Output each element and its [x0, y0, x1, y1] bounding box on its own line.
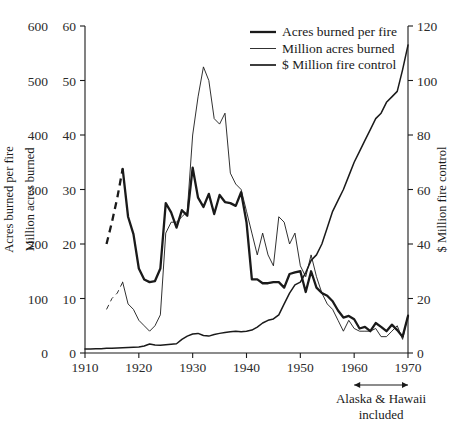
left-inner-tick-label-40: 40: [63, 128, 77, 143]
left-inner-tick-label-10: 10: [63, 292, 77, 307]
x-tick-label-1940: 1940: [233, 360, 260, 375]
left-outer-tick-label-600: 600: [28, 19, 49, 34]
right-tick-label-120: 120: [417, 19, 438, 34]
chart-canvas: 1910192019301940195019601970010203040506…: [0, 0, 457, 426]
left-inner-tick-label-20: 20: [63, 237, 77, 252]
x-tick-label-1960: 1960: [341, 360, 368, 375]
right-tick-label-80: 80: [417, 128, 431, 143]
series-line-acres-burned-per-fire: [123, 168, 408, 337]
annotation-line-1: Alaska & Hawaii: [336, 391, 427, 406]
x-tick-label-1970: 1970: [395, 360, 422, 375]
x-tick-label-1950: 1950: [287, 360, 314, 375]
left-outer-tick-label-0: 0: [41, 346, 48, 361]
left-inner-tick-label-0: 0: [69, 346, 76, 361]
series-dashed-million-acres-burned: [107, 282, 123, 309]
left-outer-tick-label-300: 300: [28, 183, 49, 198]
right-axis-title: $ Million fire control: [435, 146, 449, 252]
right-tick-label-40: 40: [417, 237, 431, 252]
left-outer-tick-label-100: 100: [28, 292, 49, 307]
legend-label-2: $ Million fire control: [282, 57, 397, 72]
x-tick-label-1930: 1930: [179, 360, 206, 375]
annotation-line-2: included: [359, 407, 404, 422]
annotation-arrowhead-1: [402, 382, 408, 388]
left-outer-axis-title: Acres burned per fire: [2, 146, 16, 253]
left-inner-tick-label-30: 30: [63, 183, 77, 198]
x-tick-label-1910: 1910: [72, 360, 99, 375]
fire-statistics-chart: 1910192019301940195019601970010203040506…: [0, 0, 457, 426]
left-inner-axis-title: Million acres burned: [23, 147, 37, 252]
right-tick-label-60: 60: [417, 183, 431, 198]
annotation-arrowhead-0: [354, 382, 360, 388]
left-outer-tick-label-200: 200: [28, 237, 49, 252]
left-outer-tick-label-400: 400: [28, 128, 49, 143]
right-tick-label-0: 0: [417, 346, 424, 361]
legend-label-0: Acres burned per fire: [282, 24, 397, 39]
left-outer-tick-label-500: 500: [28, 74, 49, 89]
series-line-$-million-fire-control: [85, 45, 408, 349]
left-inner-tick-label-50: 50: [63, 74, 77, 89]
right-tick-label-100: 100: [417, 74, 438, 89]
x-tick-label-1920: 1920: [125, 360, 152, 375]
legend-label-1: Million acres burned: [282, 41, 395, 56]
left-inner-tick-label-60: 60: [63, 19, 77, 34]
series-dashed-acres-burned-per-fire: [107, 169, 123, 244]
right-tick-label-20: 20: [417, 292, 431, 307]
